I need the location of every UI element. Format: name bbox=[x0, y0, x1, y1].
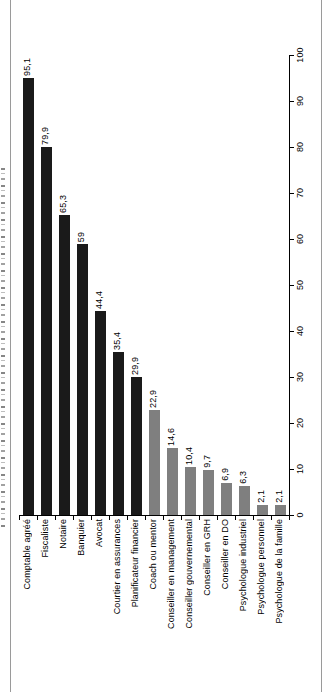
category-tick bbox=[235, 516, 236, 520]
category-label: Planificateur financier bbox=[131, 519, 140, 607]
bar-value-label: 9,7 bbox=[203, 455, 212, 468]
category-label: Conseiller gouvernemental bbox=[185, 519, 194, 629]
bar bbox=[149, 410, 160, 515]
category-tick bbox=[217, 516, 218, 520]
value-axis-tick bbox=[289, 331, 294, 332]
value-axis-tick bbox=[289, 469, 294, 470]
category-label: Psychologue personnel bbox=[257, 519, 266, 615]
bar-value-label: 2,1 bbox=[275, 490, 284, 503]
bar bbox=[275, 505, 286, 515]
bar bbox=[239, 486, 250, 515]
bar-value-label: 79,9 bbox=[41, 127, 50, 145]
category-tick bbox=[199, 516, 200, 520]
category-label: Avocat bbox=[95, 519, 104, 547]
axis-tick-label: 20 bbox=[296, 418, 305, 428]
axis-tick-label: 10 bbox=[296, 464, 305, 474]
category-tick bbox=[127, 516, 128, 520]
value-axis-tick bbox=[289, 285, 294, 286]
category-tick bbox=[271, 516, 272, 520]
category-label: Conseiller en DO bbox=[221, 519, 230, 589]
value-axis-tick bbox=[289, 193, 294, 194]
bar-value-label: 59 bbox=[77, 232, 86, 242]
axis-tick-label: 0 bbox=[296, 512, 305, 517]
rotated-bar-chart: 010203040506070809010095,1Comptable agré… bbox=[0, 0, 324, 692]
frame-left-border bbox=[10, 0, 11, 692]
value-axis-tick bbox=[289, 147, 294, 148]
bar-value-label: 44,4 bbox=[95, 291, 104, 309]
bar bbox=[113, 352, 124, 515]
category-tick bbox=[109, 516, 110, 520]
category-label: Banquier bbox=[77, 519, 86, 556]
value-axis-tick bbox=[289, 423, 294, 424]
value-axis-tick bbox=[289, 239, 294, 240]
category-label: Fiscaliste bbox=[41, 519, 50, 558]
bar-value-label: 6,3 bbox=[239, 471, 248, 484]
axis-tick-label: 70 bbox=[296, 188, 305, 198]
axis-tick-label: 80 bbox=[296, 142, 305, 152]
axis-tick-label: 40 bbox=[296, 326, 305, 336]
bar-value-label: 29,9 bbox=[131, 357, 140, 375]
category-label: Conseiller en management bbox=[167, 519, 176, 629]
bar-value-label: 65,3 bbox=[59, 195, 68, 213]
bar bbox=[59, 215, 70, 515]
bar bbox=[23, 78, 34, 515]
axis-tick-label: 50 bbox=[296, 280, 305, 290]
frame-right-border bbox=[321, 0, 322, 692]
bar bbox=[77, 244, 88, 515]
bar bbox=[203, 470, 214, 515]
category-label: Psychologue industriel bbox=[239, 519, 248, 611]
bar-value-label: 35,4 bbox=[113, 332, 122, 350]
bar bbox=[167, 448, 178, 515]
axis-tick-label: 30 bbox=[296, 372, 305, 382]
bar-value-label: 10,4 bbox=[185, 447, 194, 465]
bar bbox=[185, 467, 196, 515]
category-tick bbox=[181, 516, 182, 520]
category-label: Psychologue de la famille bbox=[275, 519, 284, 624]
category-tick bbox=[145, 516, 146, 520]
value-axis-tick bbox=[289, 101, 294, 102]
value-axis-tick bbox=[289, 377, 294, 378]
category-tick bbox=[163, 516, 164, 520]
bar bbox=[41, 147, 52, 515]
bar-value-label: 95,1 bbox=[23, 58, 32, 76]
bar bbox=[131, 377, 142, 515]
category-tick bbox=[55, 516, 56, 520]
axis-tick-label: 100 bbox=[296, 47, 305, 62]
category-tick bbox=[91, 516, 92, 520]
plot-baseline bbox=[19, 515, 290, 516]
bar-value-label: 22,9 bbox=[149, 390, 158, 408]
bar-value-label: 2,1 bbox=[257, 490, 266, 503]
category-tick bbox=[73, 516, 74, 520]
axis-tick-label: 60 bbox=[296, 234, 305, 244]
bar-value-label: 14,6 bbox=[167, 428, 176, 446]
category-tick bbox=[289, 516, 290, 520]
bar bbox=[257, 505, 268, 515]
bar bbox=[95, 311, 106, 515]
category-label: Conseiller en GRH bbox=[203, 519, 212, 596]
clipped-title-fragments bbox=[1, 168, 5, 528]
category-label: Coach ou mentor bbox=[149, 519, 158, 590]
axis-tick-label: 90 bbox=[296, 96, 305, 106]
category-label: Notaire bbox=[59, 519, 68, 549]
category-tick bbox=[37, 516, 38, 520]
bar bbox=[221, 483, 232, 515]
category-tick bbox=[253, 516, 254, 520]
category-tick bbox=[19, 516, 20, 520]
category-label: Courtier en assurances bbox=[113, 519, 122, 614]
bar-value-label: 6,9 bbox=[221, 468, 230, 481]
category-label: Comptable agréé bbox=[23, 519, 32, 590]
value-axis-tick bbox=[289, 55, 294, 56]
